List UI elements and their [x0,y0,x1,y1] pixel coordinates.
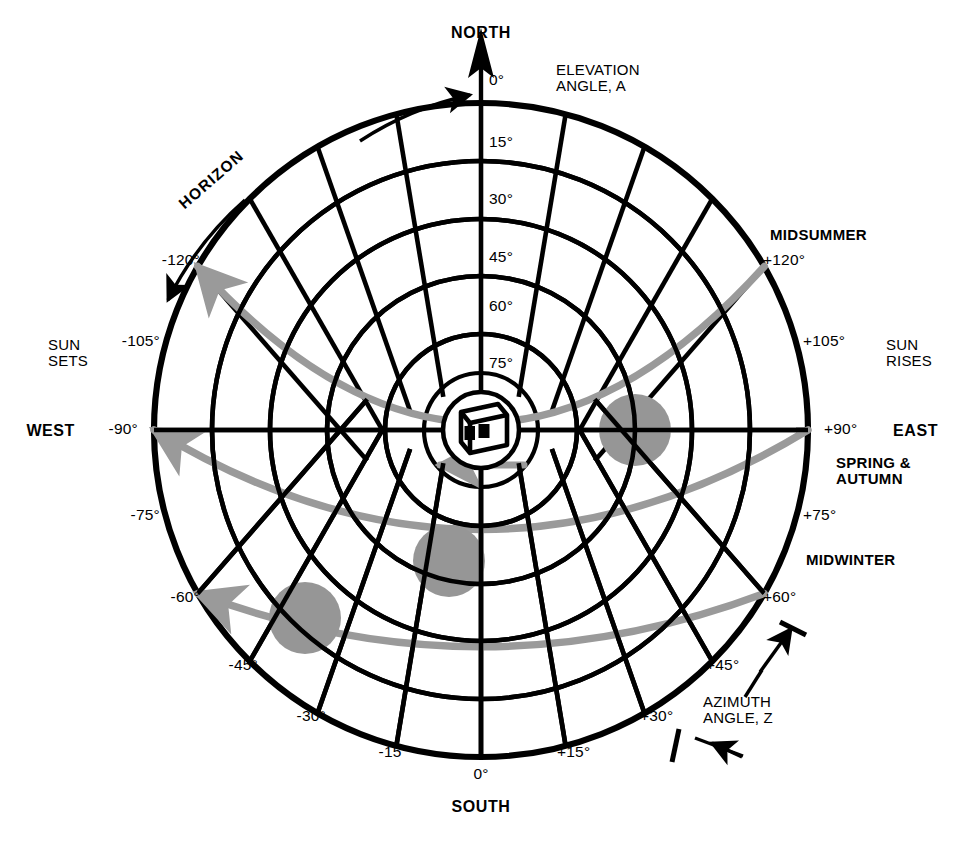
label-midwinter: MIDWINTER [806,552,895,568]
window-left-icon [465,426,476,440]
label-azimuth-angle: AZIMUTH ANGLE, Z [703,694,773,726]
center-hub [443,392,519,468]
azimuth-tick-p75: +75° [803,507,836,524]
elevation-tick-30: 30° [489,191,513,208]
sun-path-diagram: NORTH SOUTH EAST WEST ELEVATION ANGLE, A… [0,0,964,841]
label-south: SOUTH [452,798,511,815]
azimuth-tick-n45: -45° [229,657,258,674]
label-west: WEST [26,422,75,439]
label-sun-sets: SUN SETS [48,337,88,369]
azimuth-tick-n90: -90° [109,421,138,438]
azimuth-tick-p60: +60° [763,589,796,606]
elevation-tick-15: 15° [489,134,513,151]
shadow-blob-southwest [269,582,341,654]
elevation-tick-45: 45° [489,249,513,266]
azimuth-tick-0: 0° [473,766,488,783]
azimuth-tick-n60: -60° [171,589,200,606]
azimuth-tick-n30: -30° [297,708,326,725]
azimuth-tick-p120: +120° [763,252,805,269]
label-sun-rises: SUN RISES [886,337,932,369]
azimuth-tick-p30: +30° [640,708,673,725]
elevation-tick-0: 0° [489,72,504,89]
azimuth-tick-p90: +90° [824,421,857,438]
azimuth-tick-n15: -15° [379,744,408,761]
elevation-tick-75: 75° [489,355,513,372]
label-midsummer: MIDSUMMER [770,227,867,243]
azimuth-tick-p45: +45° [706,657,739,674]
label-north: NORTH [451,24,511,41]
azimuth-leader [672,622,806,762]
label-elevation-angle: ELEVATION ANGLE, A [556,62,640,94]
horizon-leader [168,95,470,300]
label-spring-autumn: SPRING & AUTUMN [836,455,911,487]
azimuth-tick-n120: -120° [162,252,200,269]
window-right-icon [479,424,490,438]
azimuth-tick-n75: -75° [131,507,160,524]
azimuth-tick-p15: +15° [557,744,590,761]
azimuth-tick-n105: -105° [122,333,160,350]
diagram-canvas [0,0,964,841]
azimuth-tick-p105: +105° [803,333,845,350]
elevation-tick-60: 60° [489,298,513,315]
label-east: EAST [893,422,938,439]
